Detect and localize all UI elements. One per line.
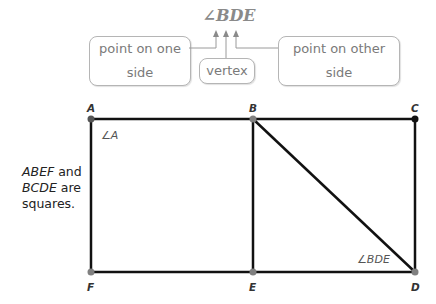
connector-left (189, 36, 216, 48)
label-a: A (86, 102, 95, 114)
connector-right (236, 36, 278, 48)
angle-label-a: ∠A (101, 129, 118, 142)
angle-label-bde: ∠BDE (357, 253, 390, 266)
callout-connectors (189, 36, 278, 58)
point-f (88, 269, 95, 276)
label-e: E (249, 281, 257, 293)
label-c: C (411, 102, 419, 114)
point-e (250, 269, 257, 276)
arrowhead-left-icon (213, 30, 219, 37)
point-b (250, 116, 257, 123)
label-b: B (249, 102, 257, 114)
segment-bd (253, 119, 415, 272)
point-a (88, 116, 95, 123)
arrowhead-vertex-icon (223, 30, 229, 37)
label-d: D (411, 281, 420, 293)
point-d (412, 269, 419, 276)
geometry-figure: A B C D E F ∠A ∠BDE (0, 0, 436, 304)
figure-lines (91, 119, 415, 272)
point-c (412, 116, 419, 123)
arrowhead-right-icon (233, 30, 239, 37)
label-f: F (87, 281, 95, 293)
connector-arrowheads (213, 30, 239, 37)
